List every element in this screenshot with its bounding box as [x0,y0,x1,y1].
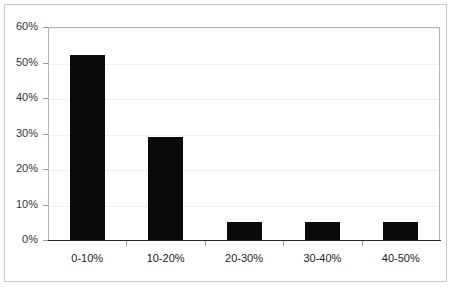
y-axis-tick [43,169,48,170]
gridline [49,28,439,29]
gridline [49,206,439,207]
bar [227,222,262,240]
x-axis-label: 40-50% [362,252,440,265]
plot-area [48,27,440,240]
y-axis-tick [43,205,48,206]
x-axis-label: 20-30% [205,252,283,265]
x-axis-tick [205,241,206,246]
x-axis-label: 0-10% [48,252,126,265]
x-axis-tick [126,241,127,246]
x-axis-line [48,240,441,241]
gridline [49,64,439,65]
bar [383,222,418,240]
x-axis-label: 10-20% [126,252,204,265]
y-axis-tick [43,98,48,99]
y-axis-label: 40% [0,92,38,103]
x-axis-label: 30-40% [283,252,361,265]
y-axis-label: 20% [0,163,38,174]
y-axis-label: 30% [0,128,38,139]
y-axis-tick [43,134,48,135]
x-axis-tick [362,241,363,246]
x-axis-tick [283,241,284,246]
gridline [49,135,439,136]
y-axis-tick [43,27,48,28]
y-axis-tick [43,63,48,64]
bar-chart: 0%10%20%30%40%50%60% 0-10%10-20%20-30%30… [0,0,452,290]
y-axis-label: 60% [0,21,38,32]
bar [148,137,183,240]
y-axis-label: 50% [0,57,38,68]
bar [70,55,105,240]
gridline [49,99,439,100]
gridline [49,170,439,171]
y-axis-label: 10% [0,199,38,210]
bar [305,222,340,240]
y-axis-tick [43,240,48,241]
y-axis-label: 0% [0,234,38,245]
